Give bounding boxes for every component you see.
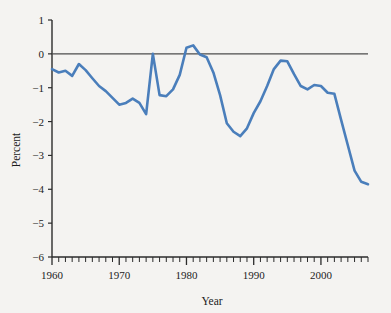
x-axis-label: Year (201, 295, 222, 307)
y-axis-tick-label: −5 (32, 217, 44, 229)
line-chart: 10−1−2−3−4−5−6 19601970198019902000 Perc… (0, 0, 391, 313)
y-axis-tick-label: −1 (32, 82, 44, 94)
chart-figure: 10−1−2−3−4−5−6 19601970198019902000 Perc… (0, 0, 391, 313)
y-axis-tick-label: 0 (39, 48, 45, 60)
x-axis-tick-label: 1990 (243, 269, 266, 281)
x-axis-tick-label: 1980 (175, 269, 198, 281)
x-axis-tick-label: 2000 (310, 269, 333, 281)
y-axis-label: Percent (10, 132, 22, 167)
y-axis-tick-label: −6 (32, 251, 44, 263)
y-axis-tick-label: −4 (32, 183, 44, 195)
y-axis-tick-label: −2 (32, 116, 44, 128)
x-axis-tick-label: 1970 (108, 269, 131, 281)
y-axis-tick-label: −3 (32, 149, 44, 161)
y-axis-tick-label: 1 (39, 14, 45, 26)
x-axis-tick-label: 1960 (41, 269, 64, 281)
